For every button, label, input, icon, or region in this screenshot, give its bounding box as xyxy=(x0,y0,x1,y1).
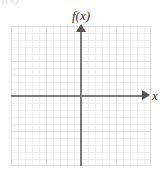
graph-figure: f(x) f(x) x xyxy=(0,0,163,175)
y-axis xyxy=(80,32,82,166)
x-axis-label: x xyxy=(152,88,158,104)
y-axis-arrow-icon xyxy=(76,24,86,32)
x-axis-arrow-icon xyxy=(142,90,150,100)
plot-area xyxy=(11,26,151,166)
clipped-header-text: f(x) xyxy=(2,0,19,5)
x-axis xyxy=(11,95,143,97)
y-axis-label: f(x) xyxy=(72,8,90,24)
